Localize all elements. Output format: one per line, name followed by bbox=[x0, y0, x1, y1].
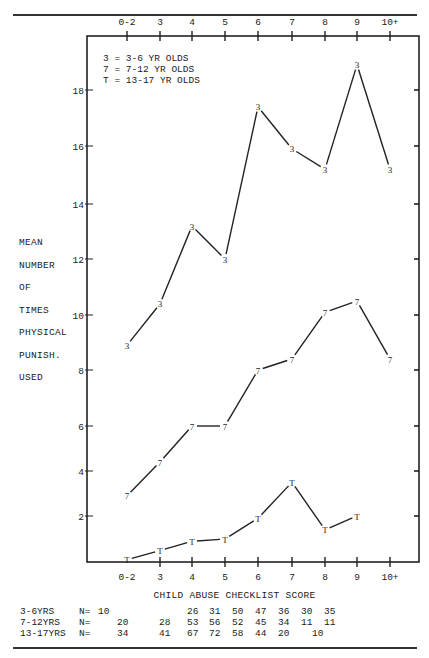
n-label: N= bbox=[79, 606, 90, 617]
y-axis-title-line: USED bbox=[19, 367, 67, 390]
data-point-marker: 7 bbox=[355, 297, 360, 307]
data-point-marker: 7 bbox=[125, 491, 130, 501]
y-tick-label: 18 bbox=[73, 86, 85, 97]
y-tick-label: 12 bbox=[73, 255, 85, 266]
series-line-segment bbox=[295, 486, 322, 525]
n-value: 11 bbox=[324, 617, 335, 628]
n-value: 56 bbox=[209, 617, 220, 628]
row-label: 3-6YRS bbox=[20, 606, 54, 617]
n-value: 72 bbox=[209, 628, 220, 639]
n-value: 53 bbox=[187, 617, 198, 628]
n-value: 50 bbox=[232, 606, 243, 617]
data-point-marker: 3 bbox=[355, 60, 360, 70]
series-line-segment bbox=[229, 521, 254, 536]
n-label: N= bbox=[79, 617, 90, 628]
y-axis-title-line: OF bbox=[19, 277, 67, 300]
data-point-marker: 3 bbox=[256, 102, 261, 112]
data-point-marker: T bbox=[189, 537, 195, 547]
plot-frame bbox=[87, 36, 419, 562]
data-point-marker: 7 bbox=[256, 366, 261, 376]
series-line-segment bbox=[296, 152, 320, 167]
n-value: 34 bbox=[117, 628, 128, 639]
series-line-segment bbox=[163, 430, 188, 459]
series-line-segment bbox=[162, 231, 190, 300]
x-tick-label-bottom: 4 bbox=[189, 572, 195, 583]
y-tick-label: 10 bbox=[73, 311, 85, 322]
n-value: 28 bbox=[159, 617, 170, 628]
series-line-segment bbox=[130, 466, 156, 493]
series-line-segment bbox=[228, 374, 256, 421]
sample-size-row: 13-17YRSN=3441677258442010 bbox=[20, 628, 420, 639]
series-line-segment bbox=[261, 486, 288, 515]
n-value: 58 bbox=[232, 628, 243, 639]
legend-item-7-12: 7 = 7-12 YR OLDS bbox=[103, 64, 200, 75]
x-axis-title: CHILD ABUSE CHECKLIST SCORE bbox=[0, 590, 429, 601]
series-line-segment bbox=[263, 361, 287, 369]
data-point-marker: T bbox=[157, 546, 163, 556]
series-line-segment bbox=[330, 303, 353, 311]
series-line-segment bbox=[130, 308, 157, 342]
n-value: 10 bbox=[312, 628, 323, 639]
sample-size-row: 7-12YRSN=202853565245341111 bbox=[20, 617, 420, 628]
sample-size-row: 3-6YRSN=1026315047363035 bbox=[20, 606, 420, 617]
data-point-marker: 3 bbox=[388, 165, 393, 175]
y-axis-title-line: MEAN bbox=[19, 232, 67, 255]
row-label: 13-17YRS bbox=[20, 628, 66, 639]
data-point-marker: 3 bbox=[223, 255, 228, 265]
x-tick-label-bottom: 10+ bbox=[381, 572, 398, 583]
data-point-marker: 3 bbox=[158, 299, 163, 309]
x-tick-label-bottom: 9 bbox=[354, 572, 360, 583]
series-line-segment bbox=[295, 316, 322, 355]
series-line-segment bbox=[196, 230, 222, 256]
sample-size-table: 3-6YRSN=10263150473630357-12YRSN=2028535… bbox=[20, 606, 420, 639]
y-axis-title-line: PHYSICAL bbox=[19, 322, 67, 345]
y-axis-title-line: PUNISH. bbox=[19, 345, 67, 368]
y-axis-title: MEAN NUMBER OF TIMES PHYSICAL PUNISH. US… bbox=[19, 232, 67, 390]
n-value: 11 bbox=[301, 617, 312, 628]
data-point-marker: 7 bbox=[323, 308, 328, 318]
y-axis-title-line: TIMES bbox=[19, 300, 67, 323]
n-value: 47 bbox=[255, 606, 266, 617]
series-line-segment bbox=[197, 539, 220, 541]
x-tick-label-top: 10+ bbox=[381, 17, 398, 28]
data-point-marker: 3 bbox=[125, 341, 130, 351]
x-tick-label-top: 3 bbox=[157, 17, 163, 28]
n-value: 31 bbox=[209, 606, 220, 617]
y-axis-title-line: NUMBER bbox=[19, 255, 67, 278]
legend-item-3-6: 3 = 3-6 YR OLDS bbox=[103, 53, 200, 64]
data-point-marker: T bbox=[255, 514, 261, 524]
y-tick-label: 2 bbox=[78, 512, 84, 523]
x-tick-label-bottom: 8 bbox=[322, 572, 328, 583]
series-line-segment bbox=[359, 305, 387, 354]
n-value: 52 bbox=[232, 617, 243, 628]
data-point-marker: T bbox=[222, 535, 228, 545]
x-tick-label-top: 0-2 bbox=[118, 17, 135, 28]
y-tick-label: 8 bbox=[78, 366, 84, 377]
series-line-segment bbox=[359, 70, 389, 165]
data-point-marker: 3 bbox=[190, 222, 195, 232]
x-tick-label-bottom: 6 bbox=[255, 572, 261, 583]
data-point-marker: 7 bbox=[190, 422, 195, 432]
y-tick-label: 14 bbox=[73, 200, 85, 211]
data-point-marker: 7 bbox=[223, 422, 228, 432]
series-line-segment bbox=[165, 543, 187, 549]
x-tick-label-top: 4 bbox=[189, 17, 195, 28]
series-line-segment bbox=[326, 70, 355, 165]
x-tick-label-bottom: 3 bbox=[157, 572, 163, 583]
n-value: 26 bbox=[187, 606, 198, 617]
x-tick-label-bottom: 5 bbox=[222, 572, 228, 583]
data-point-marker: T bbox=[124, 555, 130, 565]
legend-item-13-17: T = 13-17 YR OLDS bbox=[103, 75, 200, 86]
n-value: 45 bbox=[255, 617, 266, 628]
x-tick-label-top: 7 bbox=[289, 17, 295, 28]
data-point-marker: T bbox=[354, 512, 360, 522]
n-label: N= bbox=[79, 628, 90, 639]
data-point-marker: T bbox=[322, 525, 328, 535]
series-line-segment bbox=[330, 518, 353, 528]
x-tick-label-top: 6 bbox=[255, 17, 261, 28]
data-point-marker: 3 bbox=[290, 144, 295, 154]
y-tick-label: 4 bbox=[78, 467, 84, 478]
row-label: 7-12YRS bbox=[20, 617, 60, 628]
n-value: 30 bbox=[301, 606, 312, 617]
n-value: 36 bbox=[278, 606, 289, 617]
